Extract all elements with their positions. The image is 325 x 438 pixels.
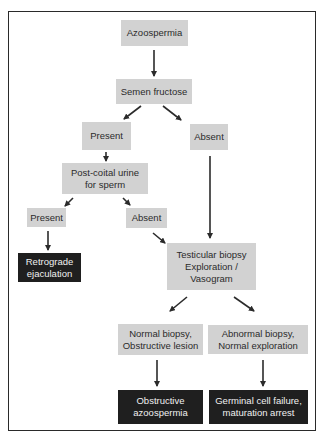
node-urine-present: Present (27, 208, 66, 227)
node-fructose-absent: Absent (190, 124, 228, 150)
node-abnormal-biopsy: Abnormal biopsy, Normal exploration (208, 325, 308, 354)
node-testicular-biopsy: Testicular biopsy Exploration / Vasogram (167, 243, 256, 290)
node-azoospermia: Azoospermia (121, 20, 188, 46)
node-post-coital-urine: Post-coital urine for sperm (62, 163, 148, 194)
node-fructose-present: Present (82, 122, 131, 150)
node-obstructive-azoospermia: Obstructive azoospermia (118, 390, 203, 424)
node-semen-fructose: Semen fructose (116, 79, 192, 104)
node-germinal-cell-failure: Germinal cell failure, maturation arrest (209, 390, 308, 424)
node-normal-biopsy: Normal biopsy, Obstructive lesion (118, 324, 203, 355)
node-urine-absent: Absent (126, 208, 167, 228)
node-retrograde-ejaculation: Retrograde ejaculation (18, 253, 81, 282)
